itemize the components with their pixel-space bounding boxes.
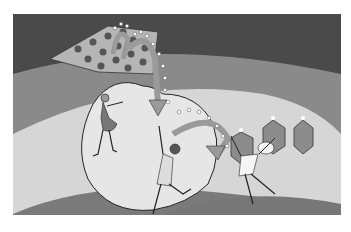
- dancers-illustration: [13, 14, 341, 215]
- illustration-frame: [13, 14, 341, 215]
